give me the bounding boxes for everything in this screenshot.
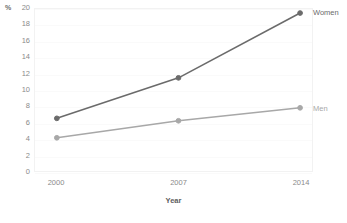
y-tick-label: 20 — [0, 4, 30, 12]
y-tick-label: 12 — [0, 70, 30, 78]
x-tick-label: 2000 — [48, 178, 65, 187]
y-tick-label: 4 — [0, 135, 30, 143]
x-tick-label: 2007 — [170, 178, 187, 187]
y-axis: 20181614121086420 — [0, 0, 30, 223]
data-point-marker — [54, 135, 59, 140]
x-axis-title: Year — [34, 196, 313, 205]
x-axis: 200020072014 — [34, 178, 313, 190]
series-line-women — [57, 13, 300, 118]
gridline — [35, 173, 312, 174]
data-point-marker — [298, 105, 303, 110]
series-label-women: Women — [313, 8, 339, 17]
series-lines — [35, 9, 312, 171]
data-point-marker — [54, 116, 59, 121]
y-tick-label: 10 — [0, 86, 30, 94]
y-tick-label: 8 — [0, 102, 30, 110]
y-tick-label: 0 — [0, 168, 30, 176]
x-tick-label: 2014 — [293, 178, 310, 187]
y-tick-label: 14 — [0, 53, 30, 61]
plot-area — [34, 8, 313, 172]
y-tick-label: 18 — [0, 20, 30, 28]
data-point-marker — [298, 11, 303, 16]
data-point-marker — [176, 75, 181, 80]
line-chart: % 20181614121086420 Women Men 2000200720… — [0, 0, 347, 223]
data-point-marker — [176, 118, 181, 123]
y-tick-label: 16 — [0, 37, 30, 45]
y-tick-label: 2 — [0, 152, 30, 160]
series-label-men: Men — [313, 104, 328, 113]
y-tick-label: 6 — [0, 119, 30, 127]
